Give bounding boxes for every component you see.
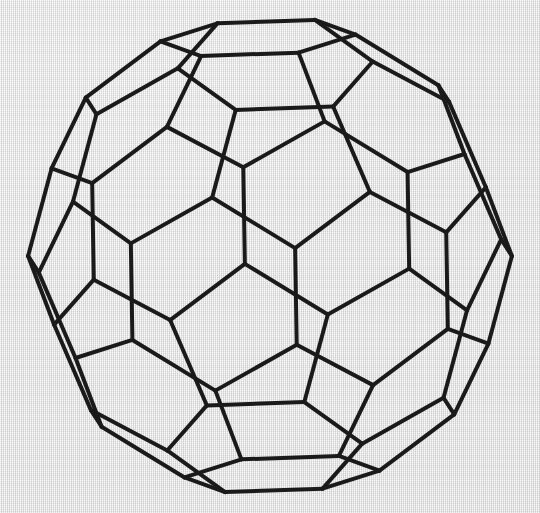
polyhedron-edge (76, 358, 102, 427)
polyhedron-edge-group (28, 20, 512, 492)
polyhedron-edge (446, 187, 486, 232)
polyhedron-edge (86, 98, 97, 115)
polyhedron-edge (245, 264, 328, 315)
truncated-icosahedron-wireframe: Truncated icosahedron (buckyball) wirefr… (0, 0, 540, 513)
polyhedron-edge (201, 53, 298, 56)
polyhedron-edge (333, 107, 370, 192)
polyhedron-edge (464, 154, 501, 239)
polyhedron-edge (362, 398, 443, 444)
polyhedron-edge (241, 456, 338, 459)
polyhedron-edge (295, 248, 297, 345)
polyhedron-edge (39, 202, 73, 273)
polyhedron-edge (467, 239, 501, 310)
polyhedron-edge (448, 329, 489, 344)
polyhedron-edge (76, 340, 133, 358)
polyhedron-edge (325, 121, 408, 172)
polyhedron-edge (39, 273, 76, 358)
polyhedron-edge (167, 56, 201, 127)
polyhedron-edge (92, 183, 94, 280)
polyhedron-edge (52, 168, 93, 183)
polyhedron-edge (408, 154, 465, 172)
polyhedron-edge (454, 344, 488, 415)
polyhedron-edge (215, 345, 296, 391)
polyhedron-edge (215, 391, 241, 460)
polyhedron-edge (131, 197, 212, 243)
polyhedron-edge (409, 269, 467, 311)
polyhedron-edge (297, 345, 373, 385)
polyhedron-edge (92, 127, 167, 183)
polyhedron-edge (379, 414, 454, 470)
polyhedron-edge (52, 98, 86, 169)
polyhedron-edge (446, 232, 448, 329)
polyhedron-edge (243, 121, 324, 167)
polyhedron-edge (373, 329, 448, 385)
polyhedron-edge (54, 325, 91, 410)
polyhedron-edge (167, 405, 207, 450)
polyhedron-edge (449, 102, 486, 187)
polyhedron-edge (96, 68, 177, 114)
polyhedron-edge (295, 192, 370, 248)
polyhedron-edge (299, 53, 325, 122)
polyhedron-edge (170, 264, 245, 320)
polyhedron-edge (339, 385, 373, 456)
polyhedron-edge (488, 256, 511, 344)
polyhedron-edge (170, 320, 207, 405)
polyhedron-edge (132, 340, 215, 391)
polyhedron-edge (333, 62, 373, 107)
polyhedron-edge (408, 172, 410, 269)
polyhedron-edge (86, 41, 161, 97)
polyhedron-edge (167, 127, 243, 167)
polyhedron-edge (328, 269, 409, 315)
figure-page: Truncated icosahedron (buckyball) wirefr… (0, 0, 540, 513)
polyhedron-edge (212, 197, 295, 248)
polyhedron-edge (217, 20, 314, 23)
polyhedron-edge (225, 489, 322, 492)
polyhedron-edge (73, 202, 131, 244)
polyhedron-edge (131, 243, 133, 340)
polyhedron-edge (54, 280, 94, 325)
polyhedron-edge (444, 398, 455, 415)
polyhedron-edge (438, 85, 464, 154)
polyhedron-edge (28, 168, 51, 256)
